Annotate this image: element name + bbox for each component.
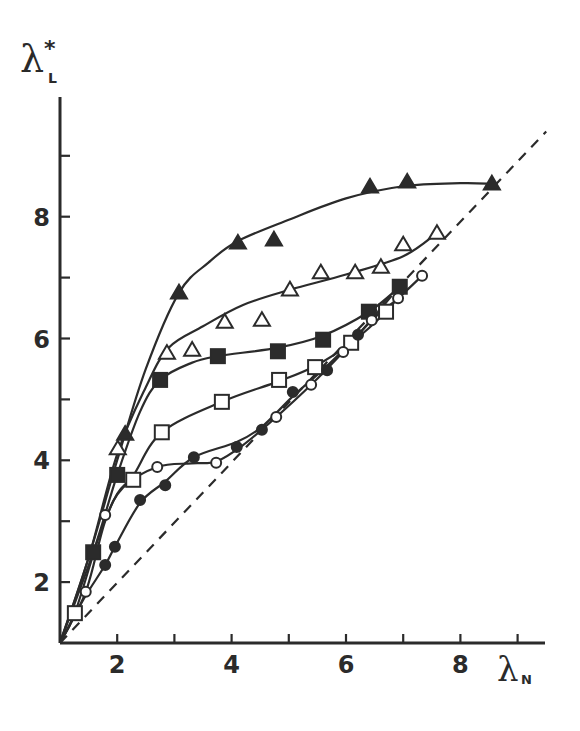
open-square-marker	[379, 305, 393, 319]
open-circle-marker	[152, 462, 162, 472]
x-tick-label: 2	[109, 651, 126, 679]
open-square-marker	[68, 606, 82, 620]
y-axis-label-lambda: λ	[20, 40, 44, 78]
filled-circle-marker	[100, 560, 110, 570]
filled-circle-marker	[189, 452, 199, 462]
open-triangle-marker	[159, 345, 175, 359]
filled-circle-marker	[353, 330, 363, 340]
filled-circle-marker	[232, 442, 242, 452]
open-square-marker	[308, 360, 322, 374]
filled-circle-marker	[160, 480, 170, 490]
filled-square-marker	[153, 373, 167, 387]
scatter-plot: 24682468	[0, 0, 580, 731]
filled-square-marker	[271, 344, 285, 358]
filled-square-marker	[86, 545, 100, 559]
open-circle-marker	[306, 380, 316, 390]
x-axis-label-lambda: λ	[497, 652, 519, 686]
open-circles-curve	[60, 276, 422, 643]
open-triangle-marker	[395, 237, 411, 251]
open-triangle-marker	[313, 265, 329, 279]
x-axis-label-subscript: N	[521, 672, 532, 687]
open-circle-marker	[211, 458, 221, 468]
open-circle-marker	[338, 347, 348, 357]
x-tick-label: 6	[338, 651, 355, 679]
open-triangle-marker	[347, 265, 363, 279]
y-tick-label: 2	[33, 569, 50, 597]
filled-triangle-marker	[362, 179, 378, 193]
filled-circle-marker	[257, 425, 267, 435]
y-tick-label: 4	[33, 447, 50, 475]
filled-square-marker	[316, 333, 330, 347]
open-circle-marker	[393, 293, 403, 303]
filled-square-marker	[393, 280, 407, 294]
filled-circle-marker	[110, 542, 120, 552]
y-axis-label-subscript: L	[48, 70, 57, 86]
y-tick-label: 8	[33, 204, 50, 232]
open-square-marker	[155, 425, 169, 439]
filled-circle-marker	[135, 495, 145, 505]
filled-circle-marker	[322, 365, 332, 375]
filled-square-marker	[110, 468, 124, 482]
open-circle-marker	[367, 315, 377, 325]
y-axis-label-asterisk: *	[44, 36, 56, 61]
filled-triangle-marker	[399, 174, 415, 188]
open-square-marker	[272, 373, 286, 387]
open-circle-marker	[100, 510, 110, 520]
open-triangle-marker	[184, 342, 200, 356]
data-markers	[68, 174, 500, 620]
x-tick-label: 4	[223, 651, 240, 679]
filled-triangle-marker	[266, 232, 282, 246]
open-square-marker	[126, 473, 140, 487]
open-circle-marker	[81, 587, 91, 597]
open-circle-marker	[271, 412, 281, 422]
filled-triangle-marker	[230, 235, 246, 249]
filled-square-marker	[211, 349, 225, 363]
open-circle-marker	[417, 271, 427, 281]
open-square-marker	[215, 395, 229, 409]
open-triangles-curve	[60, 233, 437, 643]
x-tick-label: 8	[452, 651, 469, 679]
open-triangle-marker	[429, 225, 445, 239]
y-tick-label: 6	[33, 326, 50, 354]
filled-circle-marker	[288, 387, 298, 397]
filled-triangle-marker	[171, 285, 187, 299]
open-triangle-marker	[254, 312, 270, 326]
